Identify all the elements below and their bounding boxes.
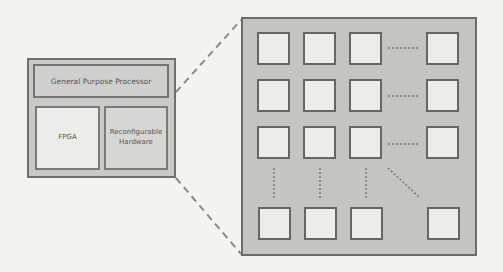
- connector-lines: [0, 0, 503, 272]
- diagonal-ellipsis: [388, 168, 420, 198]
- zoom-line-bottom: [176, 178, 241, 254]
- zoom-line-top: [176, 20, 241, 92]
